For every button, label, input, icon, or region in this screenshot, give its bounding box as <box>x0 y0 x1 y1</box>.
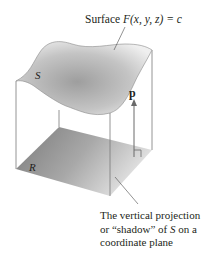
surface-s-label: S <box>35 69 41 81</box>
surface-prefix: Surface <box>85 13 123 25</box>
caption-line-2: or “shadow” of S on a <box>100 223 204 237</box>
function-name: F <box>123 13 130 25</box>
projection-caption: The vertical projection or “shadow” of S… <box>100 209 204 250</box>
caption-line-3: coordinate plane <box>100 236 204 250</box>
surface-equation-label: Surface F(x, y, z) = c <box>85 13 182 25</box>
caption-line-2-post: on a <box>175 223 196 235</box>
function-args: (x, y, z) <box>130 13 163 25</box>
region-r-label: R <box>29 161 36 173</box>
caption-line-2-pre: or “shadow” of <box>100 223 170 235</box>
vector-p-label: p <box>129 86 136 101</box>
function-rhs: = c <box>163 13 182 25</box>
caption-leader <box>115 177 138 204</box>
caption-line-1: The vertical projection <box>100 209 204 223</box>
projection-region-r <box>16 127 152 196</box>
